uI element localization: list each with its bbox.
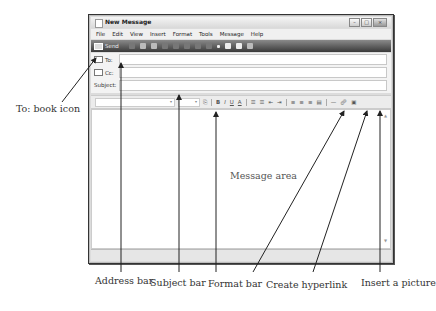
cc-book-icon[interactable] [94,69,103,76]
chevron-down-icon: ▾ [170,99,172,104]
scroll-up-arrow[interactable]: ▲ [384,113,387,118]
subject-label: Subject: [94,82,116,88]
status-bar [91,249,391,261]
decrease-indent-icon[interactable]: ⇤ [269,99,274,105]
menu-help[interactable]: Help [251,31,264,37]
cc-row: Cc: [91,66,391,78]
underline-button[interactable]: U [230,99,234,105]
horizontal-line-icon[interactable]: — [331,99,337,105]
check-names-icon[interactable] [173,43,179,49]
cc-field[interactable] [119,67,387,78]
annotation-create-hyperlink: Create hyperlink [266,279,347,290]
window-title: New Message [105,18,151,25]
subject-field[interactable] [119,80,387,91]
annotation-book-icon: To: book icon [16,103,80,114]
chevron-down-icon: ▾ [195,99,197,104]
align-center-icon[interactable]: ≡ [299,99,304,105]
send-label: Send [105,43,119,49]
annotation-insert-picture: Insert a picture [361,277,436,288]
close-button[interactable]: × [373,18,387,27]
to-field[interactable] [119,54,387,65]
toolbar: Send [91,40,391,52]
italic-button[interactable]: I [224,99,226,105]
bullet-list-icon[interactable]: ☰ [260,99,265,105]
address-book-icon[interactable] [94,56,103,63]
undo-icon[interactable] [162,43,168,49]
increase-indent-icon[interactable]: ⇥ [277,99,282,105]
justify-icon[interactable]: ▤ [317,99,322,105]
align-right-icon[interactable]: ≡ [308,99,313,105]
font-name-select[interactable]: ▾ [95,98,175,107]
menu-file[interactable]: File [96,31,105,37]
encrypt-icon[interactable] [225,43,231,49]
minimize-button[interactable]: – [349,18,360,27]
subject-row: Subject: [91,79,391,91]
font-color-button[interactable]: A [238,99,242,105]
paste-icon[interactable] [151,43,157,49]
menu-view[interactable]: View [130,31,143,37]
cc-label: Cc: [105,70,114,76]
to-label: To: [105,57,113,63]
attach-icon[interactable] [195,43,201,49]
copy-icon[interactable] [140,43,146,49]
annotation-subject-bar: Subject bar [150,277,206,288]
window-controls: – □ × [349,18,387,27]
menu-message[interactable]: Message [220,31,244,37]
menu-bar: File Edit View Insert Format Tools Messa… [91,29,391,39]
insert-picture-icon[interactable]: ▣ [351,99,356,105]
priority-icon[interactable] [206,43,212,49]
send-icon [94,43,103,50]
sign-icon[interactable] [217,45,220,48]
message-icon [95,19,103,28]
offline-icon[interactable] [236,43,242,49]
menu-edit[interactable]: Edit [112,31,123,37]
annotation-format-bar: Format bar [208,278,262,289]
cut-icon[interactable] [129,43,135,49]
to-row: To: [91,53,391,65]
font-size-select[interactable]: ▾ [178,98,200,107]
title-bar: New Message – □ × [91,17,391,28]
hyperlink-icon[interactable]: 🔗︎ [340,99,347,105]
menu-format[interactable]: Format [173,31,192,37]
maximize-button[interactable]: □ [361,18,372,27]
address-header: To: Cc: Subject: [91,53,391,93]
paragraph-style-icon[interactable]: ⎘ [203,99,207,106]
menu-tools[interactable]: Tools [199,31,213,37]
menu-insert[interactable]: Insert [150,31,166,37]
send-button[interactable]: Send [94,43,119,50]
new-message-window: New Message – □ × File Edit View Insert … [88,14,394,264]
align-left-icon[interactable]: ≡ [291,99,296,105]
format-bar: ▾ ▾ ⎘ B I U A ☰ ☰ ⇤ ⇥ ≡ ≡ ≡ ▤ — 🔗︎ ▣ [91,95,391,109]
annotation-message-area: Message area [230,170,297,181]
annotation-address-bar: Address bar [95,275,153,286]
stationery-icon[interactable] [247,43,253,49]
spelling-icon[interactable] [184,43,190,49]
bold-button[interactable]: B [216,99,220,105]
numbered-list-icon[interactable]: ☰ [251,99,256,105]
